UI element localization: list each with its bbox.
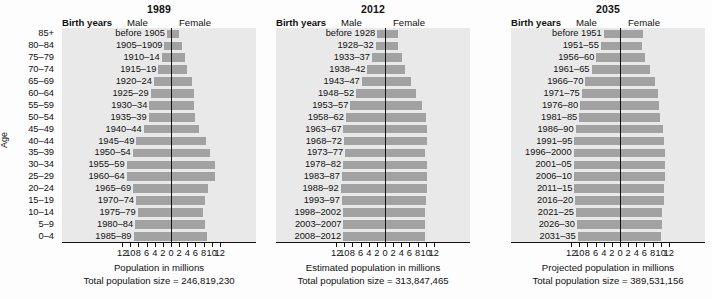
x-axis-tick <box>361 243 362 247</box>
bar-female <box>171 113 195 122</box>
birth-years-label: 1930–34 <box>62 100 147 111</box>
x-axis-tick <box>393 243 394 247</box>
x-axis-tick <box>187 243 188 247</box>
bar-female <box>385 30 398 39</box>
center-axis-line <box>171 28 172 242</box>
x-axis-tick <box>628 243 629 247</box>
bar-male <box>574 184 620 193</box>
x-axis-tick <box>418 243 419 247</box>
age-group-label: 50–54 <box>28 112 54 123</box>
bar-female <box>385 149 425 158</box>
bar-male <box>149 113 171 122</box>
bar-female <box>620 53 645 62</box>
header-male: Male <box>576 17 597 28</box>
age-group-label: 55–59 <box>28 100 54 111</box>
birth-years-label: 1948–52 <box>276 88 354 99</box>
x-axis-tick <box>171 243 172 247</box>
bar-female <box>620 220 662 229</box>
total-population-caption: Total population size = 389,531,156 <box>511 275 705 286</box>
bar-female <box>620 208 662 217</box>
pyramid-panel-2012: 2012Birth yearsMaleFemalebefore 19281928… <box>276 0 470 299</box>
birth-years-label: 1925–29 <box>62 88 149 99</box>
header-birth-years: Birth years <box>62 17 112 28</box>
birth-years-label: 1920–24 <box>62 76 152 87</box>
birth-years-label: 1955–59 <box>62 159 125 170</box>
header-female: Female <box>393 17 425 28</box>
bar-male <box>136 196 171 205</box>
birth-years-label: 2021–25 <box>511 207 574 218</box>
bar-female <box>385 220 425 229</box>
birth-years-label: 2001–05 <box>511 159 572 170</box>
x-axis-tick <box>409 243 410 247</box>
age-group-label: 75–79 <box>28 52 54 63</box>
bar-male <box>127 161 171 170</box>
bar-male <box>346 113 385 122</box>
bar-male <box>575 196 620 205</box>
birth-years-label: 1983–87 <box>276 171 340 182</box>
birth-years-label: 1975–79 <box>62 207 136 218</box>
x-axis-tick <box>434 243 435 247</box>
x-axis-label: Population in millions <box>62 262 256 273</box>
x-axis-label: Estimated population in millions <box>276 262 470 273</box>
bar-female <box>171 172 215 181</box>
age-group-label: 80–84 <box>28 40 54 51</box>
bar-male <box>342 196 385 205</box>
bar-female <box>385 77 411 86</box>
bar-male <box>343 208 385 217</box>
age-group-label: 85+ <box>38 28 54 39</box>
bar-female <box>385 172 427 181</box>
center-axis-line <box>385 28 386 242</box>
birth-years-label: before 1905 <box>62 28 165 39</box>
x-axis-tick <box>195 243 196 247</box>
age-group-label: 20–24 <box>28 183 54 194</box>
bar-male <box>127 172 171 181</box>
x-axis-tick <box>587 243 588 247</box>
bar-female <box>385 42 398 51</box>
x-axis-tick <box>612 243 613 247</box>
x-axis-tick <box>155 243 156 247</box>
x-axis-tick <box>385 243 386 247</box>
bar-male <box>133 149 171 158</box>
bar-male <box>577 220 620 229</box>
panel-title: 2035 <box>511 3 705 15</box>
birth-years-label: 1953–57 <box>276 100 348 111</box>
birth-years-label: 1971–75 <box>511 88 580 99</box>
birth-years-label: 1960–64 <box>62 171 125 182</box>
birth-years-label: 2006–10 <box>511 171 572 182</box>
bar-female <box>620 77 655 86</box>
x-axis-tick <box>220 243 221 247</box>
birth-years-label: 1993–97 <box>276 195 340 206</box>
x-axis-tick <box>653 243 654 247</box>
bar-female <box>385 65 405 74</box>
x-axis-tick-label: 12 <box>425 248 443 258</box>
x-axis-tick <box>179 243 180 247</box>
age-group-label: 40–44 <box>28 136 54 147</box>
x-axis-tick <box>401 243 402 247</box>
bar-female <box>171 101 194 110</box>
age-group-label: 65–69 <box>28 76 54 87</box>
bar-male <box>574 172 620 181</box>
header-female: Female <box>179 17 211 28</box>
header-female: Female <box>628 17 660 28</box>
bar-female <box>171 232 207 241</box>
x-axis-tick <box>130 243 131 247</box>
bar-male <box>601 42 620 51</box>
bar-male <box>149 101 171 110</box>
bar-female <box>171 149 210 158</box>
bar-male <box>580 101 620 110</box>
bar-female <box>620 42 642 51</box>
age-group-label: 35–39 <box>28 147 54 158</box>
bar-female <box>171 42 182 51</box>
age-group-label: 30–34 <box>28 159 54 170</box>
bar-male <box>154 77 171 86</box>
bar-male <box>574 137 620 146</box>
total-population-caption: Total population size = 313,847,465 <box>276 275 470 286</box>
bar-male <box>343 161 385 170</box>
birth-years-label: 2031–35 <box>511 231 576 242</box>
header-birth-years: Birth years <box>276 17 326 28</box>
x-axis-line <box>511 242 705 243</box>
birth-years-label: 1991–95 <box>511 136 572 147</box>
bar-female <box>171 184 208 193</box>
age-group-label: 70–74 <box>28 64 54 75</box>
bar-male <box>377 30 385 39</box>
